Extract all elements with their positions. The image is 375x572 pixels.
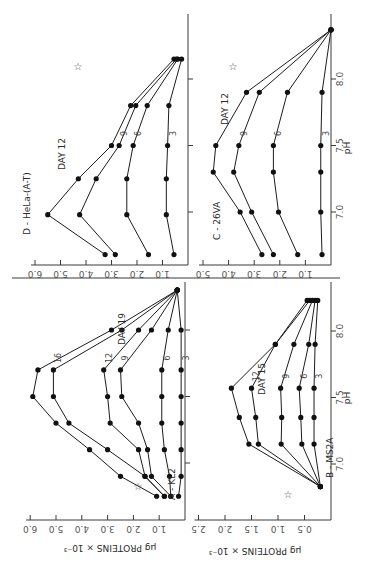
data-point — [244, 90, 249, 95]
series-label: 12 — [105, 353, 114, 363]
series-line-3 — [166, 59, 181, 255]
value-tick-label: 3.0 — [100, 524, 115, 534]
panel-b: 7.07.58.00.51.01.52.02.512963B - MS2ADAY… — [191, 282, 345, 534]
day-annotation: DAY 12 — [57, 138, 67, 170]
data-point — [105, 394, 110, 399]
data-point — [164, 212, 169, 217]
data-point — [229, 386, 234, 391]
data-point — [94, 176, 99, 181]
data-point — [311, 441, 316, 446]
series-line-16 — [53, 290, 177, 496]
series-line-3 — [321, 30, 331, 255]
data-point — [318, 484, 323, 489]
data-point — [105, 447, 110, 452]
data-point — [318, 143, 323, 148]
series-line-15 — [231, 300, 320, 486]
data-point — [271, 170, 276, 175]
data-point — [295, 252, 300, 257]
series-label: 9 — [282, 374, 291, 379]
data-point — [164, 176, 169, 181]
data-point — [256, 441, 261, 446]
panel-title: A - KL2 — [167, 468, 177, 500]
data-point — [35, 367, 40, 372]
data-point — [238, 209, 243, 214]
value-tick-label: 2.0 — [126, 524, 141, 534]
data-point — [279, 441, 284, 446]
data-point — [51, 367, 56, 372]
series-label: 3 — [322, 131, 331, 136]
series-line-12 — [104, 290, 178, 496]
data-point — [103, 252, 108, 257]
day-annotation: DAY 19 — [117, 313, 127, 345]
star-icon: ☆ — [229, 61, 238, 72]
data-point — [154, 494, 159, 499]
data-point — [313, 342, 318, 347]
data-point — [328, 27, 333, 32]
data-point — [257, 90, 262, 95]
star-icon: ☆ — [134, 481, 143, 492]
series-label: 3 — [315, 374, 324, 379]
series-line-3 — [177, 290, 181, 496]
data-point — [273, 342, 278, 347]
value-tick-label: 0.5 — [297, 524, 311, 534]
ph-tick-label: 7.0 — [335, 457, 345, 472]
series-line-3 — [314, 300, 320, 486]
data-point — [179, 447, 184, 452]
panel-c: 7.07.58.01.02.03.04.05.0963C - 26VADAY 1… — [196, 14, 345, 279]
data-point — [299, 441, 304, 446]
value-tick-label: 6.0 — [23, 524, 38, 534]
data-point — [285, 90, 290, 95]
data-point — [166, 327, 171, 332]
data-point — [253, 415, 258, 420]
data-point — [165, 143, 170, 148]
data-point — [162, 447, 167, 452]
data-point — [179, 421, 184, 426]
data-point — [159, 394, 164, 399]
data-point — [231, 170, 236, 175]
ylabel-right: µg PROTEINS × 10⁻³ — [208, 546, 301, 556]
series-label: 9 — [240, 131, 249, 136]
data-point — [279, 415, 284, 420]
data-point — [118, 367, 123, 372]
data-point — [237, 415, 242, 420]
value-tick-label: 4.0 — [74, 524, 89, 534]
data-point — [179, 367, 184, 372]
data-point — [171, 252, 176, 257]
data-point — [145, 447, 150, 452]
data-point — [297, 386, 302, 391]
labels-layer: pH pH µg PROTEINS × 10⁻³ µg PROTEINS × 1… — [63, 142, 352, 556]
data-point — [128, 103, 133, 108]
data-point — [77, 212, 82, 217]
data-point — [136, 327, 141, 332]
data-point — [45, 212, 50, 217]
data-point — [136, 447, 141, 452]
series-line-6 — [162, 290, 177, 496]
data-point — [306, 342, 311, 347]
data-point — [119, 394, 124, 399]
data-point — [53, 421, 58, 426]
ph-tick-label: 8.0 — [335, 324, 345, 339]
value-tick-label: 1.0 — [271, 524, 286, 534]
panel-title: D - HeLa-(A-T) — [22, 172, 32, 235]
day-annotation: DAY 15 — [257, 363, 267, 395]
data-point — [51, 394, 56, 399]
data-point — [159, 421, 164, 426]
data-point — [249, 209, 254, 214]
series-line-6 — [273, 30, 331, 255]
data-point — [101, 367, 106, 372]
data-point — [131, 143, 136, 148]
panel-a: 1.02.03.04.05.06.01612963A - KL2DAY 19☆ — [23, 282, 191, 534]
data-point — [66, 421, 71, 426]
data-point — [113, 252, 118, 257]
data-point — [87, 447, 92, 452]
data-point — [211, 170, 216, 175]
star-icon: ☆ — [74, 61, 83, 72]
data-point — [124, 212, 129, 217]
value-tick-label: 5.0 — [49, 524, 64, 534]
data-point — [246, 441, 251, 446]
series-label: 6 — [134, 131, 143, 136]
value-tick-label: 2.5 — [191, 524, 205, 534]
series-line-9 — [80, 59, 177, 255]
data-point — [276, 209, 281, 214]
series-label: 6 — [163, 355, 172, 360]
